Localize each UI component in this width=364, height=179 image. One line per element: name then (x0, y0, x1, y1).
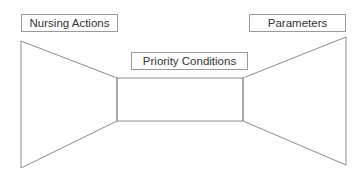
nursing-actions-text: Nursing Actions (30, 17, 110, 29)
nursing-actions-label: Nursing Actions (21, 14, 118, 32)
priority-conditions-label: Priority Conditions (131, 52, 248, 70)
left-trapezoid (21, 41, 117, 168)
center-rectangle (117, 78, 243, 121)
right-trapezoid (243, 37, 346, 165)
parameters-text: Parameters (268, 17, 327, 29)
parameters-label: Parameters (249, 14, 346, 32)
priority-conditions-text: Priority Conditions (143, 55, 236, 67)
